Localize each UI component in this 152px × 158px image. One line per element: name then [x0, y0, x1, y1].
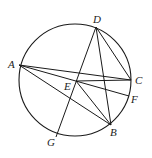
label-E: E: [63, 80, 71, 92]
label-D: D: [92, 13, 101, 25]
label-A: A: [7, 58, 15, 70]
label-C: C: [135, 74, 143, 86]
label-B: B: [110, 126, 117, 138]
label-F: F: [130, 93, 138, 105]
geometry-diagram: A D C F B G E: [0, 0, 152, 158]
label-G: G: [47, 136, 55, 148]
segment-AC: [19, 65, 131, 80]
segment-DG: [56, 27, 96, 137]
segment-DC: [96, 27, 131, 80]
segment-EC: [76, 80, 131, 81]
